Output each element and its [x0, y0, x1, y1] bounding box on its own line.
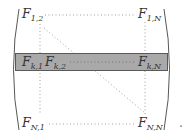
entry-f-k-2: Fk,2: [45, 56, 66, 71]
entry-f-1-n: F1,N: [138, 8, 161, 23]
entry-f-n-n: FN,N: [138, 117, 163, 132]
entry-f-k-1: Fk,1: [22, 56, 43, 71]
matrix-diagram: F1,2 F1,N Fk,1 Fk,2 Fk,N FN,1 FN,N .: [0, 0, 186, 139]
entry-f-1-2: F1,2: [22, 8, 43, 23]
entry-f-k-n: Fk,N: [138, 56, 161, 71]
entry-f-n-1: FN,1: [22, 117, 45, 132]
trailing-period: .: [179, 117, 183, 130]
